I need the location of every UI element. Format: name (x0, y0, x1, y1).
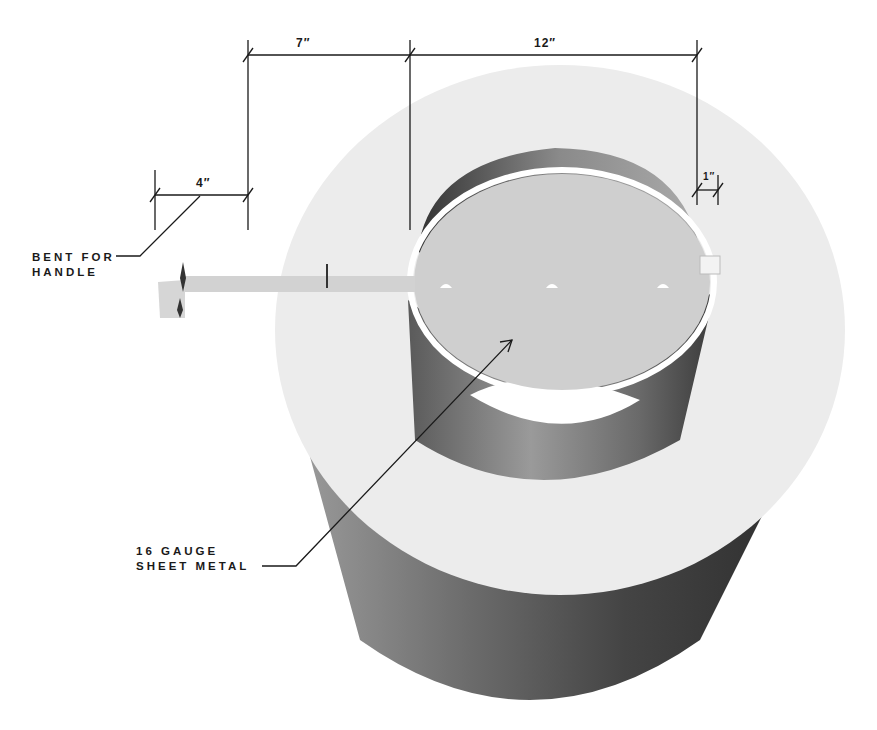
diagram-drawing (0, 0, 877, 730)
callout-handle: BENT FOR HANDLE (32, 250, 115, 280)
callout-material-line2: SHEET METAL (136, 559, 249, 574)
dimension-handle-length: 7″ (296, 36, 310, 50)
disc-tab (700, 256, 720, 274)
callout-material: 16 GAUGE SHEET METAL (136, 544, 249, 574)
sheet-metal-lid-diagram: 7″ 12″ 4″ 1″ BENT FOR HANDLE 16 GAUGE SH… (0, 0, 877, 730)
dimension-handle-bend: 4″ (196, 176, 210, 190)
callout-handle-line1: BENT FOR (32, 250, 115, 265)
callout-material-line1: 16 GAUGE (136, 544, 249, 559)
dimension-tab: 1″ (703, 171, 715, 182)
sheet-metal-disc (414, 174, 710, 390)
callout-handle-line2: HANDLE (32, 265, 115, 280)
dimension-disc-diameter: 12″ (534, 36, 556, 50)
